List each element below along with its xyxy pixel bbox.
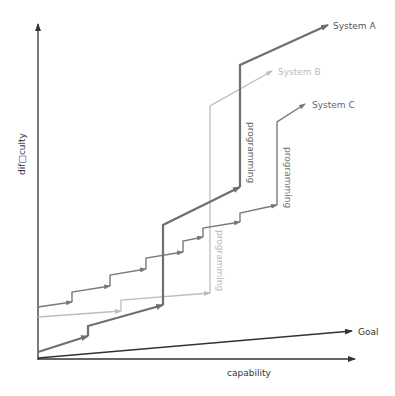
programming-label-a: programming — [246, 122, 256, 183]
y-axis-label: dif□culty — [17, 132, 27, 175]
system-b-path — [38, 71, 272, 317]
programming-label-c: programming — [283, 147, 293, 208]
goal-label: Goal — [358, 327, 379, 337]
diagram-canvas: System A System B System C Goal capabili… — [0, 0, 395, 396]
goal-line — [38, 331, 352, 358]
system-c-path — [38, 104, 305, 307]
system-b-label: System B — [278, 67, 321, 77]
system-a-label: System A — [333, 21, 376, 31]
system-c-label: System C — [312, 100, 355, 110]
programming-label-b: programming — [215, 230, 225, 291]
x-axis-label: capability — [227, 368, 271, 378]
